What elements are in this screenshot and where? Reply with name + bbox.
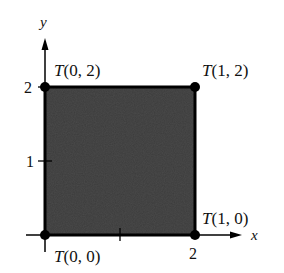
x-axis-arrow-icon	[230, 232, 242, 239]
point-label-t12: T(1, 2)	[202, 61, 248, 80]
y-tick-label-1: 1	[26, 153, 34, 170]
point-label-t00: T(0, 0)	[54, 247, 100, 266]
vertex-point-icon	[40, 82, 50, 92]
vertex-point-icon	[40, 230, 50, 240]
x-tick-label-2: 2	[189, 245, 197, 262]
vertex-point-icon	[190, 230, 200, 240]
point-label-t10: T(1, 0)	[202, 209, 248, 228]
y-axis-label: y	[38, 14, 47, 30]
diagram-canvas: y x 2 1 2 T(0, 2) T(1, 2) T(1, 0) T(0, 0…	[0, 0, 284, 273]
x-axis-label: x	[250, 227, 258, 243]
vertex-point-icon	[190, 82, 200, 92]
image-square-region	[45, 87, 195, 235]
point-label-t02: T(0, 2)	[54, 61, 100, 80]
y-axis-arrow-icon	[42, 38, 49, 50]
y-tick-label-2: 2	[24, 79, 32, 96]
